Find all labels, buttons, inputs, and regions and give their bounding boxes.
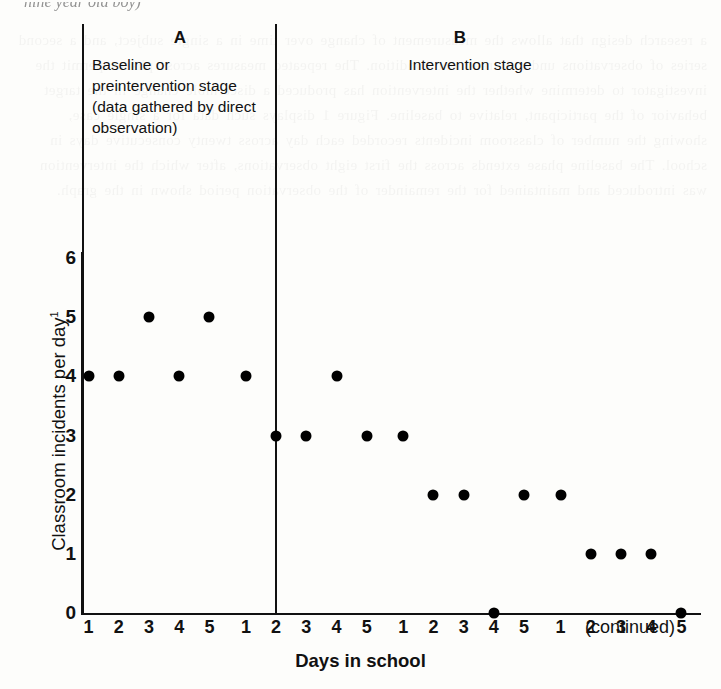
data-point (676, 608, 687, 619)
x-tick-label-s2: 2 (114, 617, 124, 638)
x-tick-label-s9: 4 (332, 617, 342, 638)
x-tick-label-s5: 5 (204, 617, 214, 638)
continued-note: (continued) (585, 617, 675, 638)
data-point (428, 489, 439, 500)
x-tick-label-s15: 5 (519, 617, 529, 638)
x-axis-line (81, 613, 701, 615)
x-tick-label-s10: 5 (362, 617, 372, 638)
x-tick-label-s16: 1 (556, 617, 566, 638)
data-point (113, 371, 124, 382)
data-point (240, 371, 251, 382)
phase-caption-b: Intervention stage (355, 54, 585, 75)
data-point (143, 312, 154, 323)
phase-letter-a: A (120, 28, 240, 48)
x-tick-label-s13: 3 (459, 617, 469, 638)
x-tick-label-s3: 3 (144, 617, 154, 638)
phase-caption-a: Baseline or preintervention stage (data … (92, 54, 276, 138)
data-point (361, 430, 372, 441)
data-point (458, 489, 469, 500)
y-axis-title-footnote: 1 (48, 311, 60, 317)
y-axis-title: Classroom incidents per day1 (48, 221, 70, 641)
x-tick-label-s11: 1 (398, 617, 408, 638)
data-point (83, 371, 94, 382)
data-point (616, 548, 627, 559)
phase-letter-b: B (400, 28, 520, 48)
x-tick-label-s7: 2 (271, 617, 281, 638)
x-tick-label-s6: 1 (241, 617, 251, 638)
data-point (301, 430, 312, 441)
x-tick-label-s8: 3 (301, 617, 311, 638)
data-point (271, 430, 282, 441)
data-point (646, 548, 657, 559)
x-tick-label-s4: 4 (174, 617, 184, 638)
y-axis-title-text: Classroom incidents per day (48, 317, 69, 550)
x-tick-label-s20: 5 (676, 617, 686, 638)
x-tick-label-s1: 1 (84, 617, 94, 638)
data-point (174, 371, 185, 382)
data-point (519, 489, 530, 500)
data-point (555, 489, 566, 500)
data-point (331, 371, 342, 382)
data-point (398, 430, 409, 441)
x-axis-title: Days in school (0, 650, 721, 672)
data-point (488, 608, 499, 619)
x-tick-label-s14: 4 (489, 617, 499, 638)
figure-container: A Baseline or preintervention stage (dat… (0, 0, 721, 689)
data-point (204, 312, 215, 323)
data-point (585, 548, 596, 559)
x-tick-label-s12: 2 (428, 617, 438, 638)
y-axis-line (81, 252, 83, 615)
